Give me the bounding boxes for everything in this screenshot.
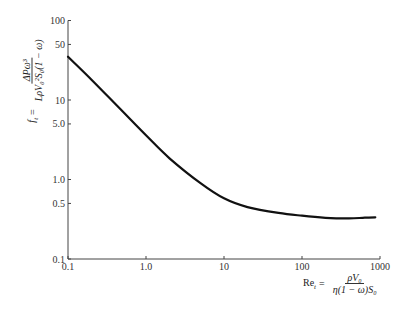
x-tick-label: 100 [295,261,310,272]
x-label-fraction: ρV₀ η(1 − ω)S₀ [331,272,379,295]
y-tick-label: 5.0 [53,118,66,129]
chart-canvas: 0.11.0101001000 0.10.51.05.01050100 [0,0,402,311]
x-tick-label: 10 [219,261,229,272]
data-curve [68,57,375,219]
x-axis-ticks: 0.11.0101001000 [62,256,390,272]
x-label-denominator: η(1 − ω)S₀ [331,284,379,295]
y-label-fraction: ΔPω³ LρV₀²S₀(1 − ω) [21,37,44,103]
y-axis-label: ft = ΔPω³ LρV₀²S₀(1 − ω) [14,20,50,140]
y-tick-label: 100 [50,15,65,26]
x-label-equals: = [319,278,325,289]
y-tick-label: 1.0 [53,174,66,185]
x-tick-label: 1.0 [140,261,153,272]
y-tick-label: 10 [55,95,65,106]
x-axis-label: Ret = ρV₀ η(1 − ω)S₀ [303,272,379,295]
y-tick-label: 50 [55,39,65,50]
y-tick-label: 0.5 [53,198,66,209]
y-label-denominator: LρV₀²S₀(1 − ω) [33,37,44,103]
y-label-lhs: ft [25,118,39,123]
x-label-numerator: ρV₀ [345,272,363,284]
axes [68,21,380,260]
x-tick-label: 1000 [370,261,390,272]
y-label-equals: = [27,109,38,115]
x-label-lhs: Ret [303,277,316,291]
y-label-numerator: ΔPω³ [21,57,33,83]
y-tick-label: 0.1 [53,254,66,265]
